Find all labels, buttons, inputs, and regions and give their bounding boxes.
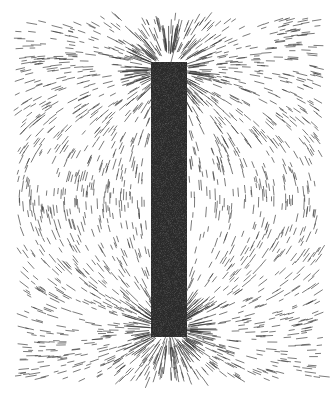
iron-filings-scene xyxy=(0,0,336,399)
bar-magnet-texture xyxy=(151,62,187,337)
